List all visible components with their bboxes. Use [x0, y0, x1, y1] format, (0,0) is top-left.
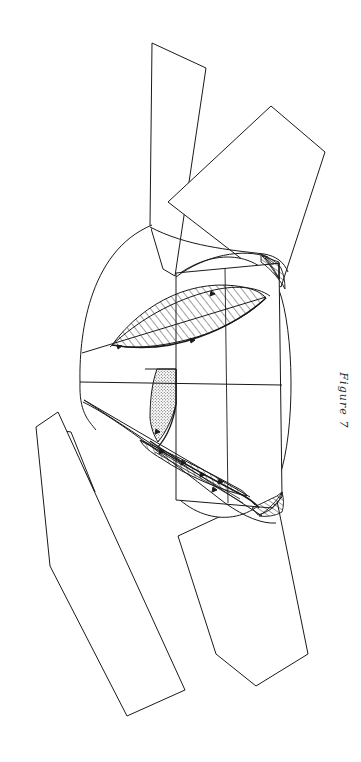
- figure-page: Figure 7: [0, 0, 361, 762]
- figure-caption-label: Figure 7: [337, 372, 350, 428]
- figure-caption: Figure 7: [331, 355, 355, 445]
- patent-figure-drawing: [0, 0, 361, 762]
